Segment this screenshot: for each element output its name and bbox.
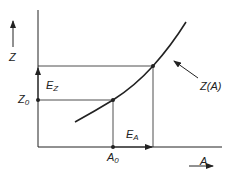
curve-z-of-a	[75, 22, 186, 122]
y-axis-label: Z	[9, 52, 16, 63]
x-axis-label: A	[200, 156, 207, 167]
z0-label: Z0	[18, 94, 29, 107]
curve-label: Z(A)	[200, 81, 221, 92]
curve-pointer-arrow	[174, 61, 198, 78]
ea-label: EA	[126, 129, 139, 142]
point-upper	[151, 64, 155, 68]
point-z0	[36, 98, 40, 102]
ez-label: EZ	[46, 80, 58, 93]
a0-label: A0	[107, 152, 119, 165]
diagram-canvas	[0, 0, 234, 177]
point-a0	[111, 145, 115, 149]
point-operating	[111, 98, 115, 102]
